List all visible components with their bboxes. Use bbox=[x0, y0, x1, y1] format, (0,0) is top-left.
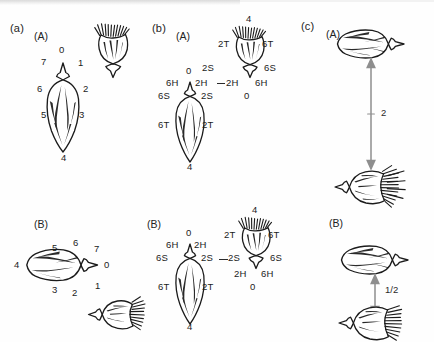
tag-b-A-left-mid-right: 2S bbox=[201, 91, 213, 101]
tag-b-B-right-up-left: 2T bbox=[224, 230, 235, 240]
tag-b-B-left-up-right: 2H bbox=[194, 240, 206, 250]
bud-c-A-bottom bbox=[332, 162, 418, 212]
bud-a-A-main bbox=[40, 57, 86, 157]
tag-b-A-right-up-left: 2T bbox=[218, 39, 229, 49]
tag-a-B-4: 4 bbox=[14, 260, 19, 270]
tag-b-B-right-bottom: 0 bbox=[250, 282, 255, 292]
panel-c-subpanel-B-label: (B) bbox=[329, 217, 343, 229]
tag-b-A-left-up-right: 2H bbox=[195, 78, 207, 88]
bud-c-B-bottom bbox=[336, 300, 422, 342]
panel-b-subpanel-B-label: (B) bbox=[147, 218, 161, 230]
panel-a: (a) (A) bbox=[0, 0, 145, 342]
tag-a-A-6: 6 bbox=[37, 84, 42, 94]
tag-a-B-1: 1 bbox=[95, 281, 100, 291]
panel-b-subpanel-A-label: (A) bbox=[176, 30, 190, 42]
tag-b-A-left-low-right: 2T bbox=[202, 120, 213, 130]
tag-b-B-right-low-left: 2H bbox=[234, 269, 246, 279]
tag-b-B-left-low-left: 6T bbox=[158, 282, 169, 292]
bud-a-B-main bbox=[26, 242, 104, 288]
tag-b-A-right-top: 4 bbox=[246, 14, 251, 24]
tag-a-A-1: 1 bbox=[78, 58, 83, 68]
tag-b-A-right-low-right: 6H bbox=[255, 78, 267, 88]
arrow-label-c-A: 2 bbox=[381, 107, 386, 118]
tag-b-B-left-low-right: 2T bbox=[202, 282, 213, 292]
tag-b-B-left-bottom: 4 bbox=[187, 322, 192, 332]
bud-a-B-partner bbox=[86, 290, 148, 342]
tag-b-A-right-up-right: 6T bbox=[262, 39, 273, 49]
tag-b-B-right-mid-left: 2S bbox=[228, 253, 240, 263]
tag-b-B-left-mid-left: 6S bbox=[156, 253, 168, 263]
tag-a-B-0: 0 bbox=[104, 260, 109, 270]
tag-b-B-left-up-left: 6H bbox=[166, 240, 178, 250]
tag-a-B-5: 5 bbox=[52, 243, 57, 253]
panel-a-label: (a) bbox=[10, 22, 24, 34]
panel-c: (c) (A) bbox=[293, 0, 434, 342]
figure-canvas: (a) (A) bbox=[0, 0, 434, 342]
bud-a-A-partner bbox=[83, 23, 141, 85]
tag-b-A-right-low-left: 2H bbox=[226, 78, 238, 88]
tag-a-A-7: 7 bbox=[41, 57, 46, 67]
tag-a-A-5: 5 bbox=[41, 110, 46, 120]
tag-a-B-3: 3 bbox=[52, 285, 57, 295]
tag-b-B-right-mid-right: 6S bbox=[270, 253, 282, 263]
tag-b-B-right-up-right: 6T bbox=[268, 230, 279, 240]
tag-a-A-3: 3 bbox=[79, 110, 84, 120]
bridge-link-b-A bbox=[217, 83, 225, 84]
tag-a-B-7: 7 bbox=[94, 244, 99, 254]
arrow-label-c-B: 1/2 bbox=[385, 284, 398, 295]
tag-b-A-right-mid-left: 2S bbox=[202, 63, 214, 73]
tag-b-B-left-top: 0 bbox=[186, 228, 191, 238]
bridge-link-b-B bbox=[219, 259, 228, 260]
panel-c-label: (c) bbox=[301, 20, 314, 32]
tag-b-B-left-mid-right: 2S bbox=[201, 253, 213, 263]
tag-b-A-left-up-left: 6H bbox=[166, 78, 178, 88]
tag-b-A-left-low-left: 6T bbox=[158, 120, 169, 130]
tag-b-A-left-top: 0 bbox=[186, 66, 191, 76]
tag-b-B-right-top: 4 bbox=[252, 205, 257, 215]
tag-a-A-4: 4 bbox=[61, 153, 66, 163]
tag-b-B-right-low-right: 6H bbox=[261, 269, 273, 279]
double-arrow-c-A bbox=[364, 58, 378, 170]
panel-b-label: (b) bbox=[152, 22, 166, 34]
panel-b: (b) (A) bbox=[145, 0, 293, 342]
panel-a-subpanel-B-label: (B) bbox=[34, 218, 48, 230]
tag-b-A-right-mid-right: 6S bbox=[264, 63, 276, 73]
tag-b-A-right-bottom: 0 bbox=[244, 91, 249, 101]
tag-a-B-2: 2 bbox=[72, 288, 77, 298]
tag-a-A-0: 0 bbox=[59, 45, 64, 55]
tag-b-A-left-mid-left: 6S bbox=[158, 91, 170, 101]
bud-b-A-right bbox=[222, 24, 278, 84]
tag-b-A-left-bottom: 4 bbox=[187, 162, 192, 172]
bud-b-B-right bbox=[228, 215, 284, 275]
tag-a-A-2: 2 bbox=[83, 84, 88, 94]
panel-a-subpanel-A-label: (A) bbox=[34, 30, 48, 42]
tag-a-B-6: 6 bbox=[73, 238, 78, 248]
